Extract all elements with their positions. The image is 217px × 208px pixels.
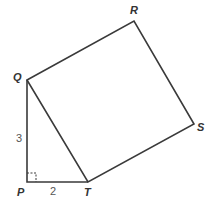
right-angle-marker	[27, 173, 36, 182]
square-qrst	[27, 21, 194, 182]
label-s: S	[197, 121, 205, 133]
length-pq: 3	[16, 132, 22, 144]
length-pt: 2	[50, 185, 56, 197]
label-t: T	[84, 186, 92, 198]
label-q: Q	[13, 71, 22, 83]
label-r: R	[130, 4, 138, 16]
label-p: P	[17, 186, 25, 198]
geometry-diagram: Q R S T P 3 2	[0, 0, 217, 208]
